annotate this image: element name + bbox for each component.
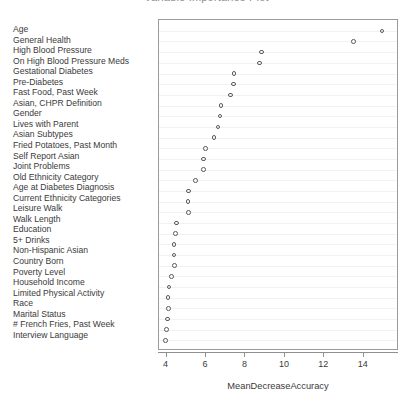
x-axis-tick <box>363 352 364 357</box>
y-axis-label: Education <box>13 224 155 235</box>
y-axis-label: Age <box>13 24 155 35</box>
y-axis-label: Leisure Walk <box>13 203 155 214</box>
y-axis-label: 5+ Drinks <box>13 235 155 246</box>
data-point <box>186 199 191 204</box>
data-point <box>174 221 179 226</box>
y-axis-label: Old Ethnicity Category <box>13 172 155 183</box>
data-point <box>172 242 177 247</box>
data-point <box>164 327 169 332</box>
y-axis-label: Lives with Parent <box>13 119 155 130</box>
y-axis-label: Household Income <box>13 277 155 288</box>
data-point <box>219 103 224 108</box>
data-point <box>216 125 221 130</box>
data-point <box>166 295 171 300</box>
data-point <box>380 29 385 34</box>
y-axis-label: On High Blood Pressure Meds <box>13 56 155 67</box>
x-axis-tick-label: 4 <box>163 359 168 369</box>
y-axis-label: Race <box>13 298 155 309</box>
x-axis-tick <box>166 352 167 357</box>
data-point <box>172 263 177 268</box>
data-point <box>169 274 174 279</box>
y-axis-label: # French Fries, Past Week <box>13 319 155 330</box>
chart-title: Variable Importance Plot <box>0 0 413 3</box>
y-axis-label: Country Born <box>13 256 155 267</box>
data-point <box>351 39 356 44</box>
y-axis-label: Fast Food, Past Week <box>13 87 155 98</box>
y-axis-label: Marital Status <box>13 309 155 320</box>
y-axis-label: Non-Hispanic Asian <box>13 245 155 256</box>
data-point <box>165 317 170 322</box>
data-point <box>212 135 217 140</box>
y-axis-label: Current Ethnicity Categories <box>13 193 155 204</box>
data-points-layer <box>159 20 397 349</box>
x-axis-tick-label: 10 <box>279 359 289 369</box>
data-point <box>186 189 191 194</box>
y-axis-label: Asian Subtypes <box>13 129 155 140</box>
data-point <box>203 146 208 151</box>
y-axis-label: Gestational Diabetes <box>13 66 155 77</box>
data-point <box>166 306 171 311</box>
y-axis-label: High Blood Pressure <box>13 45 155 56</box>
data-point <box>218 114 223 119</box>
x-axis-tick-label: 6 <box>202 359 207 369</box>
y-axis-label: Walk Length <box>13 214 155 225</box>
chart-page: Variable Importance Plot AgeGeneral Heal… <box>0 0 413 405</box>
x-axis: 468101214 <box>158 352 398 353</box>
y-axis-label: Fried Potatoes, Past Month <box>13 140 155 151</box>
data-point <box>163 338 168 343</box>
data-point <box>173 231 178 236</box>
data-point <box>193 178 198 183</box>
y-axis-label: Poverty Level <box>13 267 155 278</box>
x-axis-tick-label: 12 <box>318 359 328 369</box>
x-axis-tick <box>323 352 324 357</box>
y-axis-label: Pre-Diabetes <box>13 77 155 88</box>
plot-area <box>158 19 398 350</box>
y-axis-label: Joint Problems <box>13 161 155 172</box>
data-point <box>257 61 262 66</box>
y-axis-label: Asian, CHPR Definition <box>13 98 155 109</box>
data-point <box>201 157 206 162</box>
data-point <box>172 253 177 258</box>
x-axis-tick <box>205 352 206 357</box>
y-axis-label: Interview Language <box>13 330 155 341</box>
x-axis-tick <box>284 352 285 357</box>
y-axis-label: Limited Physical Activity <box>13 288 155 299</box>
y-axis-label-list: AgeGeneral HealthHigh Blood PressureOn H… <box>13 24 155 340</box>
y-axis-label: General Health <box>13 35 155 46</box>
y-axis-label: Gender <box>13 108 155 119</box>
y-axis-label: Self Report Asian <box>13 151 155 162</box>
data-point <box>232 71 237 76</box>
data-point <box>167 285 172 290</box>
data-point <box>228 93 233 98</box>
data-point <box>231 82 236 87</box>
x-axis-tick <box>244 352 245 357</box>
x-axis-tick-label: 8 <box>242 359 247 369</box>
data-point <box>186 210 191 215</box>
data-point <box>259 50 264 55</box>
y-axis-label: Age at Diabetes Diagnosis <box>13 182 155 193</box>
x-axis-title: MeanDecreaseAccuracy <box>158 381 398 391</box>
data-point <box>201 167 206 172</box>
x-axis-tick-label: 14 <box>358 359 368 369</box>
